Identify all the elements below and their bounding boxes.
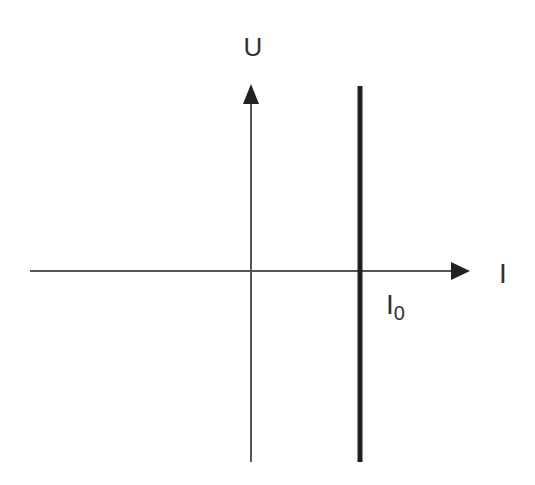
y-axis-arrow-icon bbox=[243, 84, 259, 104]
i0-label-main: I bbox=[386, 289, 394, 320]
y-axis bbox=[243, 84, 259, 462]
y-axis-label: U bbox=[244, 32, 263, 62]
x-axis-label: I bbox=[499, 258, 507, 289]
x-axis-arrow-icon bbox=[451, 262, 470, 280]
i0-label: I0 bbox=[386, 289, 405, 324]
iu-diagram: U I I0 bbox=[0, 0, 535, 485]
i0-label-subscript: 0 bbox=[394, 302, 405, 324]
